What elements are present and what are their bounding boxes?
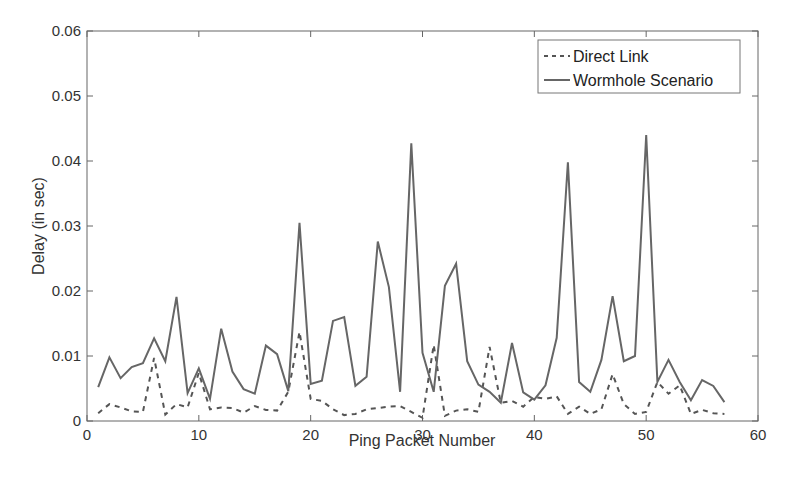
x-axis-label: Ping Packet Number <box>349 432 496 449</box>
y-tick-label: 0.04 <box>52 152 81 169</box>
y-tick-label: 0 <box>73 412 81 429</box>
x-tick-label: 10 <box>190 426 207 443</box>
y-tick-label: 0.01 <box>52 347 81 364</box>
y-tick-label: 0.03 <box>52 217 81 234</box>
y-tick-label: 0.05 <box>52 87 81 104</box>
y-tick-label: 0.06 <box>52 22 81 39</box>
x-tick-label: 40 <box>526 426 543 443</box>
legend-label-direct-link: Direct Link <box>573 48 650 65</box>
x-tick-label: 60 <box>750 426 767 443</box>
x-tick-label: 50 <box>638 426 655 443</box>
legend-label-wormhole-scenario: Wormhole Scenario <box>573 72 713 89</box>
x-tick-label: 0 <box>83 426 91 443</box>
y-tick-label: 0.02 <box>52 282 81 299</box>
y-axis-label: Delay (in sec) <box>30 177 47 275</box>
legend: Direct Link Wormhole Scenario <box>538 40 740 93</box>
line-chart: 00.010.020.030.040.050.06 0102030405060 … <box>0 0 793 484</box>
x-tick-label: 20 <box>302 426 319 443</box>
